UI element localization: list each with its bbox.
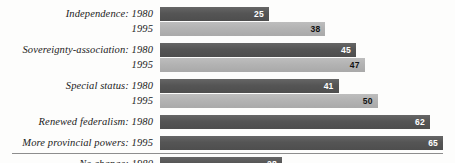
bar-value-label: 62: [415, 115, 430, 129]
row-label: Renewed federalism: 1980: [0, 115, 160, 129]
row-label: Special status: 1980: [0, 79, 160, 93]
bar-1995: 65: [160, 136, 443, 150]
bar-track: 50: [160, 94, 455, 108]
bar-1980: 28: [160, 157, 282, 163]
row-year-label: 1995: [132, 59, 153, 70]
bar-value-label: 50: [363, 94, 378, 108]
row-year-label: 1995: [132, 95, 153, 106]
bar-row: 1995 50: [0, 94, 455, 108]
row-label: More provincial powers: 1995: [0, 136, 160, 150]
bar-1995: 50: [160, 94, 378, 108]
bar-1980: 25: [160, 7, 269, 21]
bar-1995: 47: [160, 58, 365, 72]
bar-track: 65: [160, 136, 455, 150]
chart-plot-area: Independence: 1980 25 1995 38: [0, 7, 455, 163]
bar-group: Sovereignty-association: 1980 45 1995 47: [0, 43, 455, 72]
row-category-label: Independence:: [66, 8, 129, 19]
bar-group: Special status: 1980 41 1995 50: [0, 79, 455, 108]
bar-value-label: 25: [254, 7, 269, 21]
bar-1980: 41: [160, 79, 339, 93]
bar-row: 1995 47: [0, 58, 455, 72]
row-year-label: 1995: [132, 23, 153, 34]
bar-track: 45: [160, 43, 455, 57]
bar-value-label: 45: [341, 43, 356, 57]
row-label: 1995: [0, 58, 160, 72]
row-label: No change: 1980: [0, 157, 160, 163]
bar-track: 41: [160, 79, 455, 93]
baseline-rule: [12, 153, 443, 154]
bar-group: Independence: 1980 25 1995 38: [0, 7, 455, 36]
row-year-label: 1980: [132, 158, 153, 163]
bar-row: Independence: 1980 25: [0, 7, 455, 21]
row-category-label: Special status:: [66, 80, 129, 91]
bar-1980: 62: [160, 115, 430, 129]
bar-row: 1995 38: [0, 22, 455, 36]
bar-row: Special status: 1980 41: [0, 79, 455, 93]
bar-row: More provincial powers: 1995 65: [0, 136, 455, 150]
row-label: Independence: 1980: [0, 7, 160, 21]
bar-row: No change: 1980 28: [0, 157, 455, 163]
row-year-label: 1995: [132, 137, 153, 148]
bar-track: 28: [160, 157, 455, 163]
row-label: 1995: [0, 94, 160, 108]
row-category-label: More provincial powers:: [22, 137, 129, 148]
bar-track: 47: [160, 58, 455, 72]
bar-value-label: 65: [428, 136, 443, 150]
bar-group: No change: 1980 28 1995 19: [0, 157, 455, 163]
row-category-label: Sovereignty-association:: [22, 44, 128, 55]
bar-value-label: 47: [350, 58, 365, 72]
row-year-label: 1980: [132, 8, 153, 19]
row-label: Sovereignty-association: 1980: [0, 43, 160, 57]
bar-value-label: 28: [267, 157, 282, 163]
bar-track: 25: [160, 7, 455, 21]
bar-chart-figure: Independence: 1980 25 1995 38: [0, 0, 455, 163]
bar-track: 38: [160, 22, 455, 36]
row-category-label: Renewed federalism:: [39, 116, 129, 127]
row-year-label: 1980: [132, 80, 153, 91]
bar-value-label: 41: [324, 79, 339, 93]
row-label: 1995: [0, 22, 160, 36]
bar-group: More provincial powers: 1995 65: [0, 136, 455, 150]
bar-row: Sovereignty-association: 1980 45: [0, 43, 455, 57]
bar-row: Renewed federalism: 1980 62: [0, 115, 455, 129]
bar-1980: 45: [160, 43, 356, 57]
bar-value-label: 38: [311, 22, 326, 36]
row-year-label: 1980: [132, 44, 153, 55]
bar-1995: 38: [160, 22, 325, 36]
row-year-label: 1980: [132, 116, 153, 127]
row-category-label: No change:: [79, 158, 129, 163]
bar-track: 62: [160, 115, 455, 129]
bar-group: Renewed federalism: 1980 62: [0, 115, 455, 129]
